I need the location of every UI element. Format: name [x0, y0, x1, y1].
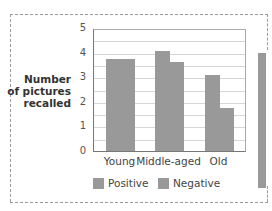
gridline: [94, 54, 245, 55]
legend-swatch-negative: [158, 178, 169, 189]
plot-area: [93, 29, 246, 152]
y-axis-label-line: recalled: [7, 97, 71, 109]
bar-positive-young: [106, 59, 121, 151]
y-tick-label: 2: [74, 96, 86, 107]
y-tick-label: 1: [74, 120, 86, 131]
bar-negative-middle-aged: [170, 62, 185, 151]
side-scroll-bar: [258, 53, 266, 188]
y-tick-label: 5: [74, 22, 86, 33]
y-tick-label: 3: [74, 71, 86, 82]
bar-positive-middle-aged: [155, 51, 170, 151]
bar-negative-old: [220, 108, 235, 151]
y-axis-label: Number of pictures recalled: [7, 73, 71, 109]
bar-negative-young: [121, 59, 136, 151]
frame-top: [10, 14, 268, 15]
frame-bottom: [10, 202, 268, 203]
y-tick-label: 4: [74, 47, 86, 58]
frame-right-top: [267, 14, 268, 50]
legend-swatch-positive: [93, 178, 104, 189]
gridline: [94, 41, 245, 42]
frame-right-bottom: [267, 186, 268, 202]
y-axis-label-line: Number: [7, 73, 71, 85]
legend-label-negative: Negative: [173, 177, 220, 189]
y-axis-label-line: of pictures: [7, 85, 71, 97]
x-tick-label: Old: [179, 155, 259, 167]
bar-positive-old: [205, 75, 220, 151]
legend-label-positive: Positive: [108, 177, 148, 189]
